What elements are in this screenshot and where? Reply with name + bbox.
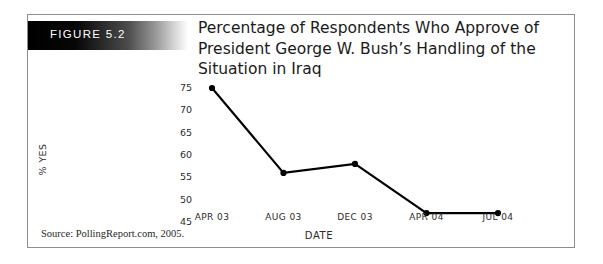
y-axis-tick-label: 50 [170, 194, 192, 205]
x-axis-tick-label: APR 03 [177, 212, 247, 222]
figure-frame: FIGURE 5.2 Percentage of Respondents Who… [27, 14, 575, 248]
source-note: Source: PollingReport.com, 2005. [41, 228, 184, 239]
y-axis-title: % YES [37, 125, 48, 195]
data-point-marker [209, 85, 215, 91]
figure-number-banner: FIGURE 5.2 [28, 21, 188, 50]
y-axis-tick-label: 70 [170, 104, 192, 115]
data-series-line [212, 88, 498, 213]
x-axis-tick-label: AUG 03 [249, 212, 319, 222]
data-point-marker [280, 170, 286, 176]
figure-container: FIGURE 5.2 Percentage of Respondents Who… [0, 0, 603, 264]
data-point-markers [209, 85, 501, 216]
y-axis-tick-label: 60 [170, 149, 192, 160]
x-axis-tick-label: DEC 03 [320, 212, 390, 222]
y-axis-tick-label: 55 [170, 171, 192, 182]
x-axis-title: DATE [284, 230, 354, 241]
data-point-marker [352, 161, 358, 167]
y-axis-tick-label: 75 [170, 82, 192, 93]
x-axis-tick-label: JUL 04 [463, 212, 533, 222]
y-axis-tick-label: 65 [170, 127, 192, 138]
figure-number-label: FIGURE 5.2 [50, 28, 126, 40]
x-axis-tick-label: APR 04 [392, 212, 462, 222]
